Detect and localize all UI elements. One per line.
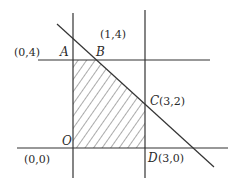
point-o-label: O bbox=[62, 134, 72, 148]
point-o-coord: (0,0) bbox=[24, 153, 50, 166]
point-d-label: D bbox=[147, 151, 158, 165]
point-d-coord: (3,0) bbox=[158, 152, 184, 165]
point-c-label: C bbox=[150, 94, 159, 108]
feasible-region-diagram: (0,4) A B (1,4) C (3,2) O (0,0) D (3,0) bbox=[0, 0, 239, 192]
point-a-coord: (0,4) bbox=[14, 46, 40, 59]
point-a-label: A bbox=[59, 45, 69, 59]
point-b-coord: (1,4) bbox=[100, 28, 126, 41]
point-b-label: B bbox=[95, 45, 105, 59]
point-c-coord: (3,2) bbox=[159, 95, 185, 108]
shaded-region bbox=[73, 60, 145, 148]
